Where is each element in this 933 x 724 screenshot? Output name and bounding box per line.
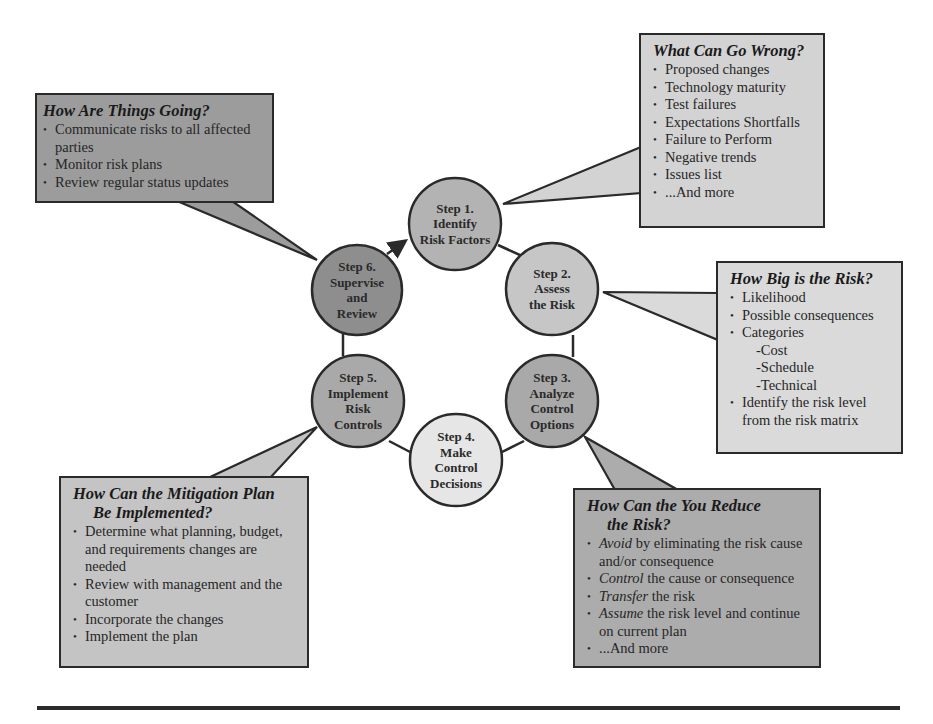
step2-number: Step 2. (529, 266, 575, 282)
step1-label: Step 1. Identify Risk Factors (409, 178, 501, 270)
list-subitem: -Technical (730, 377, 893, 395)
list-item: Monitor risk plans (43, 156, 264, 174)
list-item: Review with management and the customer (73, 576, 299, 611)
list-item: Possible consequences (730, 307, 893, 325)
list-subitem: -Schedule (730, 359, 893, 377)
list-item: Likelihood (730, 289, 893, 307)
step5-number: Step 5. (328, 370, 389, 386)
strategy-term: Assume (599, 605, 643, 621)
list-item: Failure to Perform (653, 131, 815, 149)
step5-text-line: Risk (328, 401, 389, 417)
callout-title-continued: the Risk? (587, 515, 811, 534)
step2-text-line: the Risk (529, 297, 575, 313)
list-item: Review regular status updates (43, 174, 264, 192)
step1-text-line: Risk Factors (420, 232, 490, 248)
callout-what-can-go-wrong: What Can Go Wrong? Proposed changes Tech… (639, 33, 825, 228)
list-item: Technology maturity (653, 79, 815, 97)
list-item: Negative trends (653, 149, 815, 167)
step5-label: Step 5. Implement Risk Controls (312, 355, 404, 447)
list-item: Test failures (653, 96, 815, 114)
list-item: Identify the risk level from the risk ma… (730, 394, 893, 429)
list-item: Expectations Shortfalls (653, 114, 815, 132)
callout-pointer-reduce (585, 437, 678, 490)
strategy-term: Avoid (599, 535, 632, 551)
step4-text-line: Decisions (430, 476, 482, 492)
list-item: ...And more (653, 184, 815, 202)
bottom-rule-divider (37, 706, 900, 710)
step3-number: Step 3. (530, 370, 575, 386)
callout-title: How Are Things Going? (43, 101, 264, 120)
strategy-description: the cause or consequence (644, 570, 795, 586)
list-item: Communicate risks to all affected partie… (43, 121, 264, 156)
bullet-list: Proposed changes Technology maturity Tes… (653, 61, 815, 201)
bullet-list: Determine what planning, budget, and req… (73, 523, 299, 646)
callout-title: How Big is the Risk? (730, 269, 893, 288)
callout-pointer-what-can-go-wrong (503, 147, 641, 204)
step4-text-line: Control (430, 460, 482, 476)
callout-title: What Can Go Wrong? (653, 41, 815, 60)
list-item: Avoid by eliminating the risk cause and/… (587, 535, 811, 570)
callout-how-big-is-the-risk: How Big is the Risk? Likelihood Possible… (716, 261, 903, 454)
step4-label: Step 4. Make Control Decisions (410, 414, 502, 506)
bullet-list: Likelihood Possible consequences Categor… (730, 289, 893, 429)
step1-text-line: Identify (420, 216, 490, 232)
list-item: Determine what planning, budget, and req… (73, 523, 299, 576)
step3-text-line: Options (530, 417, 575, 433)
list-subitem: -Cost (730, 342, 893, 360)
callout-pointer-mitigation (208, 427, 317, 478)
callout-pointer-things-going (177, 201, 317, 260)
callout-pointer-how-big (603, 292, 718, 340)
step4-number: Step 4. (430, 429, 482, 445)
step6-text-line: Supervise (330, 275, 384, 291)
step4-text-line: Make (430, 445, 482, 461)
callout-how-mitigation-implemented: How Can the Mitigation Plan Be Implement… (59, 476, 309, 668)
list-item: Proposed changes (653, 61, 815, 79)
list-item: Categories (730, 324, 893, 342)
list-item: Control the cause or consequence (587, 570, 811, 588)
step6-text-line: and (330, 290, 384, 306)
callout-how-reduce-risk: How Can the You Reduce the Risk? Avoid b… (573, 488, 821, 668)
strategy-description: ...And more (599, 640, 668, 656)
bullet-list: Avoid by eliminating the risk cause and/… (587, 535, 811, 658)
step6-text-line: Review (330, 306, 384, 322)
step5-text-line: Controls (328, 417, 389, 433)
strategy-term: Control (599, 570, 644, 586)
step3-text-line: Analyze (530, 386, 575, 402)
step2-label: Step 2. Assess the Risk (506, 243, 598, 335)
step5-text-line: Implement (328, 386, 389, 402)
step3-label: Step 3. Analyze Control Options (506, 355, 598, 447)
strategy-term: Transfer (599, 588, 648, 604)
list-item: Transfer the risk (587, 588, 811, 606)
list-item: ...And more (587, 640, 811, 658)
callout-title: How Can the You Reduce (587, 496, 811, 515)
list-item: Assume the risk level and continue on cu… (587, 605, 811, 640)
step3-text-line: Control (530, 401, 575, 417)
step6-label: Step 6. Supervise and Review (312, 245, 402, 335)
step1-number: Step 1. (420, 201, 490, 217)
callout-title-continued: Be Implemented? (73, 503, 299, 522)
callout-how-are-things-going: How Are Things Going? Communicate risks … (35, 93, 274, 203)
list-item: Incorporate the changes (73, 611, 299, 629)
strategy-description: the risk (648, 588, 695, 604)
list-item: Issues list (653, 166, 815, 184)
list-item: Implement the plan (73, 628, 299, 646)
step6-number: Step 6. (330, 259, 384, 275)
bullet-list: Communicate risks to all affected partie… (43, 121, 264, 191)
callout-title: How Can the Mitigation Plan (73, 484, 299, 503)
step2-text-line: Assess (529, 281, 575, 297)
